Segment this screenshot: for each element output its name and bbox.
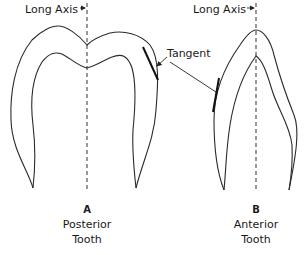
caption-posterior: Posterior xyxy=(63,218,112,231)
long-axis-label-b: Long Axis xyxy=(193,3,246,16)
tangent-arrow-a xyxy=(157,57,167,66)
panel-b-anterior-tooth: Long Axis xyxy=(193,3,297,190)
caption-anterior: Anterior xyxy=(234,218,279,231)
tangent-leader-b xyxy=(170,62,216,92)
panel-letter-a: A xyxy=(83,204,91,215)
inner-outline-b xyxy=(224,56,292,190)
outer-outline-b xyxy=(214,30,297,190)
inner-outline-a xyxy=(32,53,136,188)
tangent-label: Tangent xyxy=(166,47,211,60)
tooth-axis-diagram: Long Axis Tangent Long Axis A Posterior … xyxy=(0,0,308,255)
outer-outline-a xyxy=(11,26,158,188)
tangent-line-b xyxy=(213,78,219,112)
long-axis-label-a: Long Axis xyxy=(25,3,78,16)
caption-tooth-b: Tooth xyxy=(240,233,271,246)
caption-tooth-a: Tooth xyxy=(71,233,102,246)
tangent-line-a xyxy=(143,47,158,80)
panel-a-posterior-tooth: Long Axis xyxy=(11,3,158,190)
panel-letter-b: B xyxy=(252,204,260,215)
